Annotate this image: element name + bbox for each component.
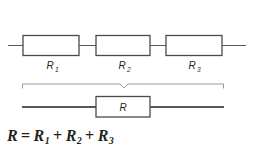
resistor-r3-label-sub: 3 <box>197 66 201 73</box>
equation-term-3-sub: 3 <box>109 135 114 146</box>
resistor-r2-label-base: R <box>118 60 125 71</box>
series-circuit-group: R 1 R 2 R 3 <box>8 36 246 73</box>
equation-term-3-base: R <box>98 127 109 144</box>
equivalence-brace <box>23 84 224 89</box>
resistor-r3-label-base: R <box>188 60 195 71</box>
resistor-equivalent-label: R <box>119 102 126 113</box>
equation-term-2-sub: 2 <box>77 135 82 146</box>
equation-term-1-sub: 1 <box>45 135 50 146</box>
equation-equals-sign: = <box>18 127 34 144</box>
brace-path <box>23 84 224 89</box>
resistor-r2-body <box>96 36 150 56</box>
resistor-r3-body <box>166 36 222 56</box>
resistor-r2-label-sub: 2 <box>126 66 131 73</box>
resistor-r1-label-base: R <box>46 60 53 71</box>
resistor-r1-label-sub: 1 <box>55 66 59 73</box>
equation-operator-2: + <box>82 127 98 144</box>
equivalent-circuit-group: R <box>22 97 224 118</box>
series-resistor-diagram: R 1 R 2 R 3 R <box>0 0 270 151</box>
equation-line: R=R1+R2+R3 <box>7 125 114 149</box>
resistor-r1-body <box>23 36 79 56</box>
equation-term-2-base: R <box>66 127 77 144</box>
equation-operator-1: + <box>50 127 66 144</box>
equation-lhs: R <box>7 127 18 144</box>
equation-term-1-base: R <box>34 127 45 144</box>
